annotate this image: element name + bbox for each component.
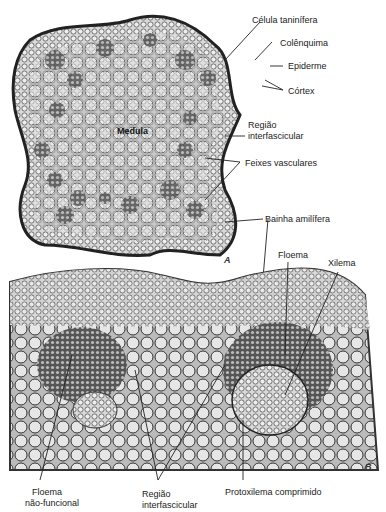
label-feixes-vasculares: Feixes vasculares [245,158,317,168]
label-floema-nao-funcional-2: não-funcional [25,498,79,508]
label-floema-nao-funcional-1: Floema [32,487,62,497]
label-cortex: Córtex [288,86,315,96]
label-colenquima: Colênquima [280,38,328,48]
label-bainha-amilifera: Bainha amilífera [265,214,330,224]
label-xilema: Xilema [328,258,356,268]
label-epiderme: Epiderme [288,61,327,71]
label-regiao-b: Região [142,489,171,499]
label-celula-taninifera: Célula taninífera [252,15,318,25]
label-interfascicular: interfascicular [248,131,304,141]
label-regiao: Região [248,120,277,130]
medula-label: Medula [117,126,148,136]
label-interfascicular-b: interfascicular [142,500,198,510]
label-floema: Floema [278,250,308,260]
panel-letter-b: B [365,462,372,472]
micrograph-illustration [0,0,386,512]
panel-letter-a: A [224,255,231,265]
label-protoxilema-comprimido: Protoxilema comprimido [225,487,322,497]
